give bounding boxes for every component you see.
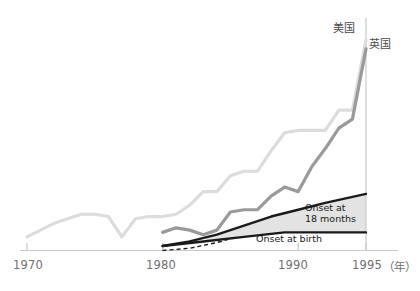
x-axis-unit-label: （年）	[383, 258, 416, 274]
annotation-onset-18-months-line2: 18 months	[305, 213, 356, 224]
annotation-onset-at-birth: Onset at birth	[256, 233, 322, 244]
annotation-onset-18-months-line1: Onset at	[305, 202, 346, 213]
x-tick-label-1980: 1980	[146, 258, 176, 272]
chart-plot-area	[0, 0, 420, 291]
series-label-us: 美国	[333, 19, 355, 35]
x-tick-label-1995: 1995	[352, 258, 382, 272]
x-tick-label-1990: 1990	[278, 258, 308, 272]
x-tick-label-1970: 1970	[13, 258, 43, 272]
x-axis-ticks	[27, 243, 366, 251]
series-label-uk: 英国	[369, 35, 391, 51]
chart-container: 1970 1980 1990 1995 （年） 美国 英国 Onset at 1…	[0, 0, 420, 291]
